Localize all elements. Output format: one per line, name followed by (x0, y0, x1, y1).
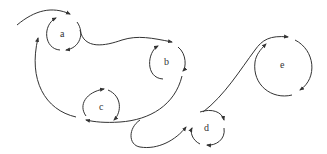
node-d-label: d (204, 122, 209, 133)
node-a-label: a (60, 28, 65, 39)
a-to-b-curve (80, 30, 172, 45)
node-e-label: e (280, 59, 285, 70)
node-c-label: c (99, 101, 104, 112)
c-to-a-curve (35, 38, 76, 117)
flow-diagram: a b c d (0, 0, 327, 154)
entry-curve (17, 10, 70, 25)
node-b-label: b (164, 56, 169, 67)
node-e-cycle: e (255, 40, 312, 96)
c-to-d-loop (131, 120, 186, 148)
node-c-cycle: c (83, 89, 120, 120)
node-b-cycle: b (150, 46, 186, 79)
node-d-cycle: d (191, 110, 224, 145)
node-a-cycle: a (47, 18, 81, 50)
d-to-e-curve (203, 37, 288, 112)
b-to-c-curve (86, 76, 182, 122)
